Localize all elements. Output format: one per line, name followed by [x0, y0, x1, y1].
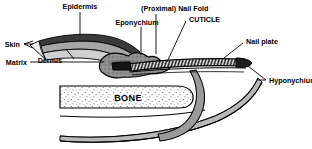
leader-hyponychium: [248, 66, 266, 80]
leader-nail-plate: [224, 43, 243, 58]
label-skin: Skin: [5, 40, 20, 49]
label-nail-plate: Nail plate: [246, 37, 278, 46]
label-matrix: Matrix: [6, 58, 27, 67]
label-dermis: Dermis: [38, 56, 62, 65]
label-hyponychium: Hyponychium: [269, 76, 312, 85]
bone-label: BONE: [114, 93, 142, 103]
nail-anatomy-diagram: BONE: [0, 0, 312, 149]
distal-phalanx-bone: BONE: [60, 86, 193, 108]
leader-cuticle: [167, 21, 186, 62]
lower-tissue-boundary: [60, 110, 205, 117]
label-eponychium: Eponychium: [115, 18, 158, 27]
label-cuticle: CUTICLE: [189, 15, 220, 24]
label-proximal-nail-fold: (Proximal) Nail Fold: [141, 4, 209, 13]
label-epidermis: Epidermis: [63, 2, 98, 11]
